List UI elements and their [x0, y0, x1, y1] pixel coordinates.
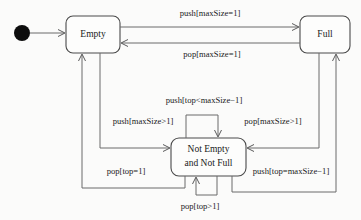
state-diagram-canvas: Empty Full Not Empty and Not Full push[m… [0, 0, 361, 220]
state-diagram-svg: Empty Full Not Empty and Not Full push[m… [0, 0, 361, 220]
initial-pseudostate-dot [14, 25, 30, 41]
transition-label-push-maxsize-gt-1: push[maxSize>1] [113, 116, 174, 126]
transition-label-push-maxsize-eq-1: push[maxSize=1] [180, 8, 241, 18]
transition-label-push-top-eq-maxsize-minus-1: push[top=maxSize−1] [253, 166, 330, 176]
state-label-not-empty-and-not-full-line2: and Not Full [184, 158, 232, 168]
state-label-empty: Empty [80, 29, 106, 39]
transition-label-pop-top-gt-1: pop[top>1] [181, 201, 220, 211]
transition-label-pop-maxsize-eq-1: pop[maxSize=1] [183, 49, 240, 59]
transition-label-pop-top-eq-1: pop[top=1] [107, 166, 146, 176]
state-label-not-empty-and-not-full-line1: Not Empty [188, 144, 230, 154]
edge-middle-self-loop-push [186, 115, 218, 138]
state-label-full: Full [317, 29, 333, 39]
transition-label-pop-maxsize-gt-1: pop[maxSize>1] [244, 116, 301, 126]
edge-empty-to-middle [100, 53, 169, 148]
edge-full-to-middle [248, 53, 319, 148]
transition-label-push-top-lt-maxsize-minus-1: push[top<maxSize−1] [166, 95, 243, 105]
edge-middle-self-loop-pop [196, 176, 217, 195]
